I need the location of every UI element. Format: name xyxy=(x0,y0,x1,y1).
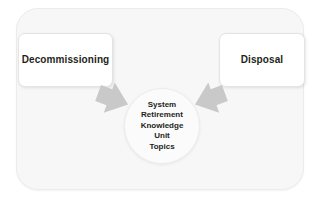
diagram-root: Decommissioning Disposal System Retireme… xyxy=(0,0,322,207)
center-line-1: System xyxy=(148,100,176,110)
node-disposal[interactable]: Disposal xyxy=(219,33,305,87)
center-line-2: Retirement xyxy=(141,110,183,120)
center-node-system-retirement-knowledge-unit-topics[interactable]: System Retirement Knowledge Unit Topics xyxy=(124,88,200,164)
center-line-3: Knowledge xyxy=(141,121,184,131)
center-line-5: Topics xyxy=(149,142,174,152)
center-line-4: Unit xyxy=(154,131,170,141)
node-disposal-label: Disposal xyxy=(241,54,283,66)
node-decommissioning[interactable]: Decommissioning xyxy=(18,33,113,87)
node-decommissioning-label: Decommissioning xyxy=(22,54,110,66)
